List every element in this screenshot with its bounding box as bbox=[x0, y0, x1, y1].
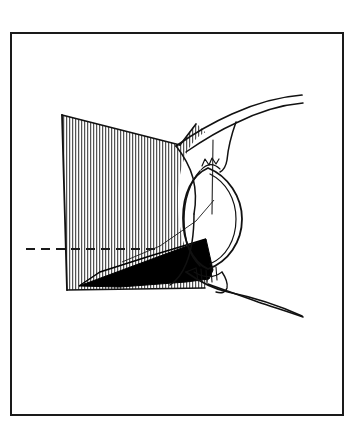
figure-root bbox=[0, 0, 350, 426]
eye-visual-field-diagram bbox=[0, 0, 350, 426]
